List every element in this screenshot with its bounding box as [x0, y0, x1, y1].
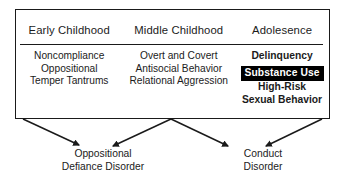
status-badge-substance-use: Substance Use [241, 66, 324, 81]
column-items-early-childhood: Noncompliance Oppositional Temper Tantru… [16, 50, 122, 88]
list-item: Oppositional [16, 63, 122, 76]
list-item: Overt and Covert [122, 50, 235, 63]
stage-items-row: Noncompliance Oppositional Temper Tantru… [16, 50, 329, 106]
outcome-line-1: Oppositional [43, 148, 163, 161]
column-items-middle-childhood: Overt and Covert Antisocial Behavior Rel… [122, 50, 235, 88]
outcome-conduct-disorder: Conduct Disorder [208, 148, 318, 173]
outcome-line-2: Defiance Disorder [43, 161, 163, 174]
outcome-line-2: Disorder [208, 161, 318, 174]
list-item: Delinquency [235, 50, 329, 62]
list-item: Noncompliance [16, 50, 122, 63]
highlighted-item-wrapper: Substance Use [235, 62, 329, 81]
column-header-adolescence: Adolesence [235, 16, 329, 44]
column-header-early-childhood: Early Childhood [16, 16, 122, 44]
list-item: Temper Tantrums [16, 75, 122, 88]
stage-headers-row: Early Childhood Middle Childhood Adolese… [16, 16, 329, 44]
column-items-adolescence: Delinquency Substance Use High-Risk Sexu… [235, 50, 329, 106]
arrow-adolescence-to-cd [266, 119, 322, 146]
arrow-early-to-odd [23, 119, 79, 145]
arrow-middle-to-cd [171, 119, 228, 146]
stage-box: Early Childhood Middle Childhood Adolese… [15, 9, 330, 119]
outcome-line-1: Conduct [208, 148, 318, 161]
arrow-middle-to-odd [113, 119, 171, 146]
outcome-oppositional-defiance-disorder: Oppositional Defiance Disorder [43, 148, 163, 173]
list-item: High-Risk [235, 81, 329, 93]
header-divider-rule [20, 44, 323, 45]
column-header-middle-childhood: Middle Childhood [122, 16, 235, 44]
list-item: Sexual Behavior [235, 94, 329, 106]
developmental-progression-diagram: Early Childhood Middle Childhood Adolese… [0, 0, 348, 187]
list-item: Relational Aggression [122, 75, 235, 88]
list-item: Antisocial Behavior [122, 63, 235, 76]
